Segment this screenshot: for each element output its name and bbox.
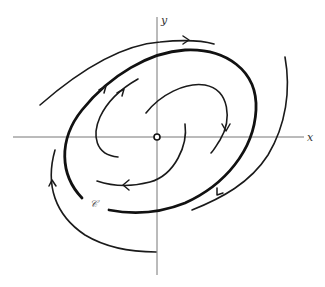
inner-left-trajectory xyxy=(96,79,138,157)
outer-left-bottom-trajectory xyxy=(51,150,156,252)
x-axis-label: x xyxy=(307,131,314,144)
inner-lower-trajectory xyxy=(97,124,185,185)
limit-cycle-trajectory xyxy=(65,50,256,213)
origin-equilibrium-marker xyxy=(154,134,160,140)
inner-right-trajectory xyxy=(146,85,227,153)
limit-cycle-label: 𝒞 xyxy=(90,198,100,209)
outer-right-trajectory xyxy=(192,57,287,210)
phase-portrait-diagram: x y 𝒞 xyxy=(0,0,325,287)
arrowhead-icon xyxy=(217,188,223,195)
y-axis-label: y xyxy=(160,14,168,27)
